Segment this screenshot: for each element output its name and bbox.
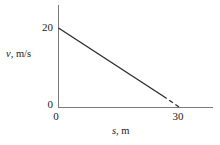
x-axis-tick-label-0: 0 [50, 111, 62, 122]
velocity-position-graph-figure: 20 0 0 30 v, m/s s, m [0, 0, 220, 145]
x-axis-units: , m [116, 125, 129, 136]
y-axis-units: , m/s [11, 48, 31, 59]
y-axis-tick-label-20: 20 [33, 22, 53, 33]
y-axis-tick-label-0: 0 [41, 99, 53, 110]
x-axis-tick-label-30: 30 [167, 111, 189, 122]
x-axis-title: s, m [112, 126, 130, 137]
y-axis-title: v, m/s [6, 49, 31, 60]
